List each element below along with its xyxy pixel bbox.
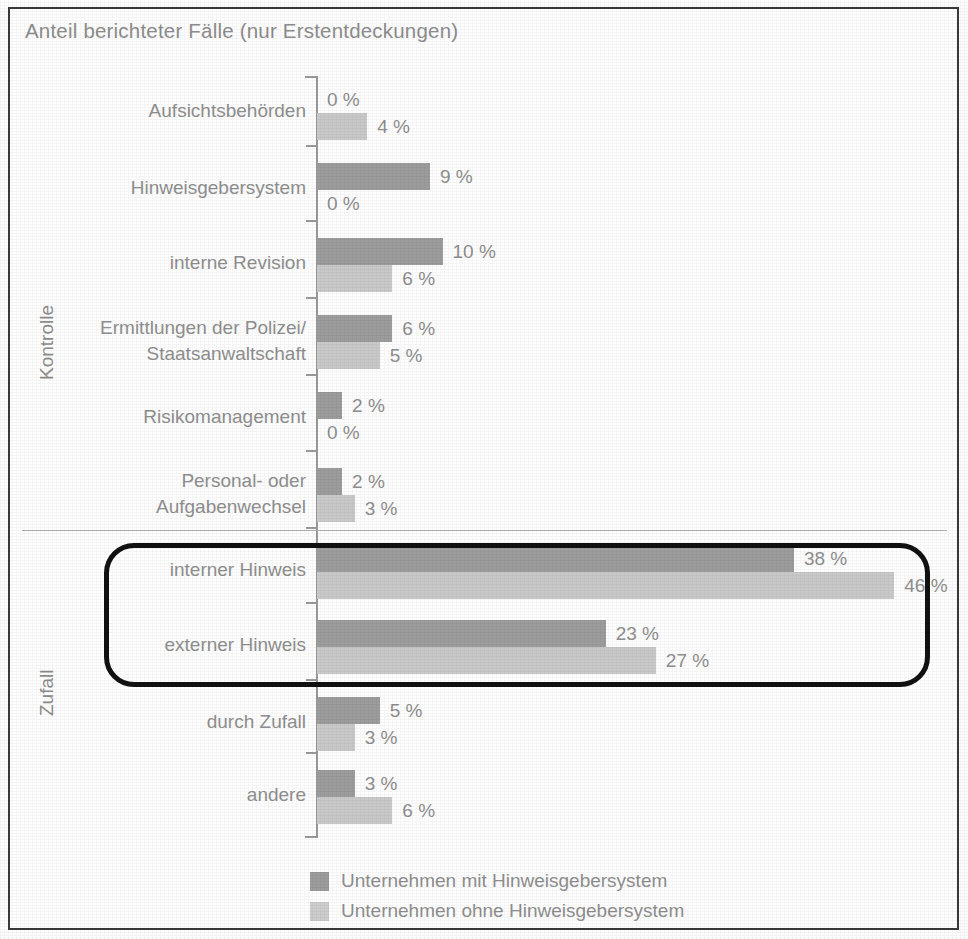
bar-with xyxy=(317,545,794,572)
category-label-line: Aufsichtsbehörden xyxy=(149,99,306,122)
bar-row: interner Hinweis38 %46 % xyxy=(0,545,968,599)
axis-tick xyxy=(306,602,317,604)
bar-value-label: 10 % xyxy=(453,238,496,265)
bar-value-label: 6 % xyxy=(402,797,435,824)
bar-with xyxy=(317,238,443,265)
bar-value-label: 3 % xyxy=(365,724,398,751)
bar-without xyxy=(317,342,380,369)
bar-with xyxy=(317,163,430,190)
bar-row: Ermittlungen der Polizei/Staatsanwaltsch… xyxy=(0,315,968,369)
axis-tick xyxy=(306,752,317,754)
bar-row: Personal- oderAufgabenwechsel2 %3 % xyxy=(0,468,968,522)
bar-without xyxy=(317,572,894,599)
bar-value-label: 3 % xyxy=(365,495,398,522)
category-label-line: Aufgabenwechsel xyxy=(156,495,306,518)
axis-tick xyxy=(306,527,317,529)
bar-without xyxy=(317,797,392,824)
category-label-line: durch Zufall xyxy=(207,710,306,733)
group-divider xyxy=(22,530,947,531)
bar-without xyxy=(317,265,392,292)
bar-value-label: 27 % xyxy=(666,647,709,674)
bar-value-label: 2 % xyxy=(352,392,385,419)
bar-with xyxy=(317,392,342,419)
bar-value-label: 0 % xyxy=(327,419,360,446)
category-label-line: interne Revision xyxy=(170,251,306,274)
bar-without xyxy=(317,113,367,140)
axis-end-cap xyxy=(305,836,318,838)
bar-value-label: 5 % xyxy=(390,342,423,369)
bar-value-label: 4 % xyxy=(377,113,410,140)
bar-value-label: 0 % xyxy=(327,190,360,217)
bar-value-label: 23 % xyxy=(616,620,659,647)
legend-swatch xyxy=(310,872,329,891)
bar-row: durch Zufall5 %3 % xyxy=(0,697,968,751)
axis-tick xyxy=(306,297,317,299)
bar-with xyxy=(317,315,392,342)
axis-tick xyxy=(306,679,317,681)
bar-value-label: 6 % xyxy=(402,315,435,342)
category-label-line: Ermittlungen der Polizei/ xyxy=(100,316,306,339)
bar-chart-plot: Kontrolle Zufall Aufsichtsbehörden0 %4 %… xyxy=(0,0,968,939)
bar-row: interne Revision10 %6 % xyxy=(0,238,968,292)
category-label-line: andere xyxy=(247,783,306,806)
bar-with xyxy=(317,620,606,647)
category-label-line: Risikomanagement xyxy=(143,405,306,428)
category-label-line: Hinweisgebersystem xyxy=(131,176,306,199)
bar-without xyxy=(317,647,656,674)
bar-with xyxy=(317,770,355,797)
category-label-line: externer Hinweis xyxy=(165,633,307,656)
bar-value-label: 6 % xyxy=(402,265,435,292)
axis-tick xyxy=(306,374,317,376)
legend-label: Unternehmen mit Hinweisgebersystem xyxy=(341,866,667,896)
bar-row: externer Hinweis23 %27 % xyxy=(0,620,968,674)
bar-value-label: 3 % xyxy=(365,770,398,797)
bar-row: Risikomanagement2 %0 % xyxy=(0,392,968,446)
axis-tick xyxy=(306,450,317,452)
axis-tick xyxy=(306,145,317,147)
category-label-line: Staatsanwaltschaft xyxy=(147,342,306,365)
bar-value-label: 5 % xyxy=(390,697,423,724)
bar-value-label: 38 % xyxy=(804,545,847,572)
bar-row: Hinweisgebersystem9 %0 % xyxy=(0,163,968,217)
axis-end-cap xyxy=(305,76,318,78)
bar-without xyxy=(317,495,355,522)
axis-tick xyxy=(306,220,317,222)
bar-with xyxy=(317,697,380,724)
figure-scan: Anteil berichteter Fälle (nur Erstentdec… xyxy=(0,0,968,939)
legend-swatch xyxy=(310,902,329,921)
bar-row: Aufsichtsbehörden0 %4 % xyxy=(0,86,968,140)
bar-value-label: 46 % xyxy=(904,572,947,599)
legend-label: Unternehmen ohne Hinweisgebersystem xyxy=(341,896,684,926)
bar-value-label: 0 % xyxy=(327,86,360,113)
bar-without xyxy=(317,724,355,751)
bar-value-label: 2 % xyxy=(352,468,385,495)
bar-row: andere3 %6 % xyxy=(0,770,968,824)
bar-with xyxy=(317,468,342,495)
bar-value-label: 9 % xyxy=(440,163,473,190)
category-label-line: Personal- oder xyxy=(181,469,306,492)
category-label-line: interner Hinweis xyxy=(170,558,306,581)
